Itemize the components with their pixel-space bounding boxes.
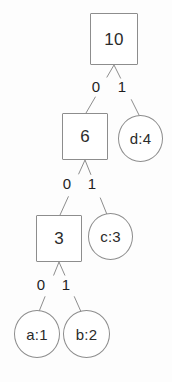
edge-n3-to-a (54, 262, 59, 276)
edge-root-to-n6 (86, 97, 96, 113)
edge-n6-to-c (85, 160, 91, 175)
edge-n3-to-b (59, 262, 65, 276)
tree-node-label: a:1 (26, 327, 47, 342)
tree-node-root: 10 (90, 13, 138, 65)
tree-node-label: b:2 (76, 327, 97, 342)
tree-node-label: c:3 (100, 229, 121, 244)
tree-node-label: d:4 (130, 131, 151, 146)
tree-node-label: 3 (54, 230, 64, 247)
edge-root-to-d (114, 65, 121, 79)
edge-root-to-n6 (107, 65, 114, 77)
edge-bit-label-n3-b: 1 (60, 277, 72, 292)
edge-bit-label-root-n6: 0 (90, 79, 102, 94)
tree-node-label: 6 (80, 128, 90, 145)
edge-bit-label-n6-n3: 0 (61, 176, 73, 191)
tree-node-n6: 6 (62, 113, 108, 160)
edge-bit-label-n6-c: 1 (86, 176, 98, 191)
tree-node-label: 10 (104, 31, 123, 48)
tree-node-b: b:2 (63, 310, 110, 358)
edge-bit-label-root-d: 1 (116, 79, 128, 94)
edge-bit-label-n3-a: 0 (35, 277, 47, 292)
huffman-tree-diagram: 106d:43c:3a:1b:2010101 (0, 0, 172, 382)
tree-node-d: d:4 (118, 115, 163, 162)
tree-node-c: c:3 (88, 213, 133, 260)
edge-n6-to-n3 (79, 160, 86, 174)
tree-node-a: a:1 (14, 310, 60, 358)
edge-n6-to-n3 (60, 196, 69, 215)
tree-node-n3: 3 (36, 215, 82, 262)
